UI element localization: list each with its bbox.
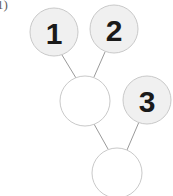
node-n4[interactable] (60, 76, 110, 126)
edge-n1-n4 (62, 55, 76, 78)
node-circle-n5[interactable] (92, 148, 142, 196)
nodes-group: 123 (30, 5, 171, 196)
node-n3[interactable]: 3 (123, 76, 171, 124)
node-label-n2: 2 (106, 14, 123, 47)
edge-n2-n4 (94, 52, 105, 77)
node-n2[interactable]: 2 (90, 5, 138, 53)
edge-n4-n5 (94, 124, 108, 149)
node-label-n3: 3 (139, 85, 156, 118)
diagram-canvas: 1) 123 (0, 0, 173, 196)
tree-diagram: 123 (0, 0, 173, 196)
node-circle-n4[interactable] (60, 76, 110, 126)
node-n1[interactable]: 1 (30, 8, 78, 56)
node-n5[interactable] (92, 148, 142, 196)
edge-n3-n5 (127, 122, 139, 150)
node-label-n1: 1 (46, 17, 63, 50)
